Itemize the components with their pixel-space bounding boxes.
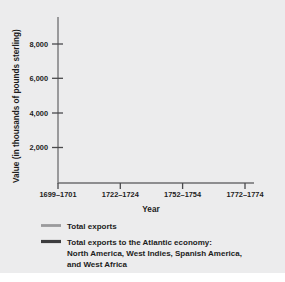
legend-label-atlantic-economy-line2: North America, West Indies, Spanish Amer…	[67, 249, 242, 258]
y-tick-label-8000: 8,000	[30, 40, 49, 49]
line-chart: Value (in thousands of pounds sterling) …	[0, 0, 285, 273]
x-tick-label-4: 1772–1774	[227, 190, 265, 199]
axis-spine	[58, 17, 254, 183]
series-line-atlantic-economy	[58, 116, 245, 178]
y-tick-label-4000: 4,000	[30, 109, 49, 118]
x-tick-label-2: 1722–1724	[102, 190, 140, 199]
y-tick-label-2000: 2,000	[30, 143, 49, 152]
legend-label-atlantic-economy-line1: Total exports to the Atlantic economy:	[67, 238, 212, 247]
x-axis-title: Year	[142, 205, 160, 214]
legend-label-total-exports: Total exports	[67, 222, 117, 231]
figure-panel: Value (in thousands of pounds sterling) …	[0, 0, 285, 273]
y-axis-title: Value (in thousands of pounds sterling)	[12, 29, 21, 183]
series-line-total-exports	[58, 38, 245, 121]
legend-label-atlantic-economy-line3: and West Africa	[67, 260, 128, 269]
x-tick-label-3: 1752–1754	[164, 190, 202, 199]
y-tick-label-6000: 6,000	[30, 74, 49, 83]
x-tick-label-1: 1699–1701	[40, 190, 77, 199]
